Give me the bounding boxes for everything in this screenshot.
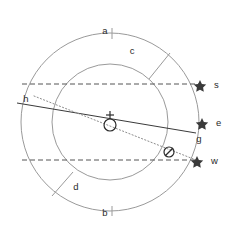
secondary-body-symbol — [164, 147, 174, 157]
astronomical-diagram: a b c d h g s e w — [0, 0, 230, 241]
radial-connector-c — [149, 53, 170, 79]
label-e: e — [216, 117, 221, 128]
radial-connector-d — [52, 172, 73, 196]
label-s: s — [214, 79, 219, 90]
label-c: c — [130, 45, 135, 56]
label-h: h — [23, 93, 28, 104]
label-a: a — [102, 25, 108, 36]
outer-circle — [21, 33, 199, 211]
label-d: d — [73, 181, 78, 192]
diagram-canvas: a b c d h g s e w — [0, 0, 230, 241]
label-g: g — [196, 133, 201, 144]
star-marker-e — [196, 118, 208, 130]
solid-chord-line — [17, 103, 196, 133]
label-b: b — [102, 207, 107, 218]
star-marker-s — [194, 80, 206, 92]
inner-circle — [52, 64, 168, 180]
label-w: w — [210, 155, 218, 166]
star-marker-w — [191, 156, 203, 168]
